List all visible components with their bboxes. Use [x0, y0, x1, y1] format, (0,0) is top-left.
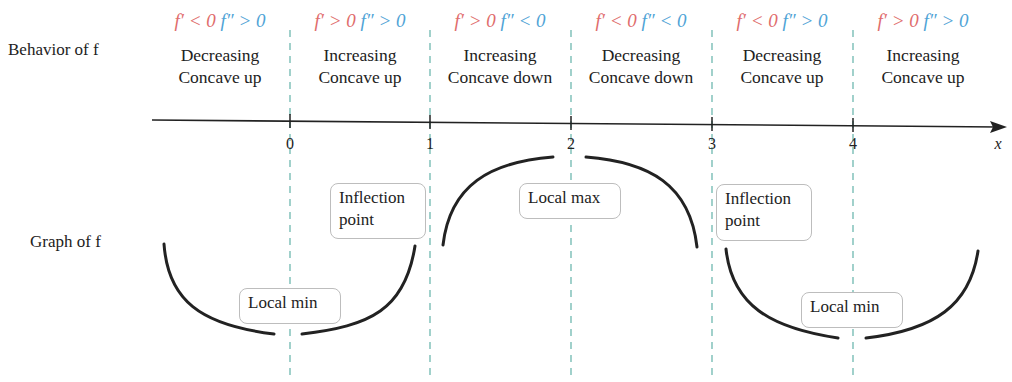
behavior-row-label: Behavior of f	[8, 40, 99, 60]
tick-label-3: 3	[702, 135, 722, 153]
behavior-interval-2: IncreasingConcave up	[290, 44, 430, 88]
condition-interval-4: f′ < 0 f″ < 0	[571, 10, 711, 32]
inflection-point-label-1: Inflectionpoint	[330, 183, 426, 239]
tick-label-1: 1	[420, 135, 440, 153]
inflection-point-label-2: Inflectionpoint	[716, 184, 812, 241]
condition-interval-2: f′ > 0 f″ > 0	[290, 10, 430, 32]
condition-interval-5: f′ < 0 f″ > 0	[712, 10, 852, 32]
tick-label-0: 0	[280, 135, 300, 153]
behavior-interval-3: IncreasingConcave down	[430, 44, 570, 88]
graph-row-label: Graph of f	[30, 232, 101, 252]
x-axis-label: x	[988, 135, 1008, 153]
tick-label-2: 2	[561, 135, 581, 153]
local-min-label-1: Local min	[239, 288, 341, 324]
local-min-label-2: Local min	[801, 292, 903, 328]
local-max-label: Local max	[519, 183, 621, 219]
behavior-interval-4: DecreasingConcave down	[571, 44, 711, 88]
condition-interval-3: f′ > 0 f″ < 0	[430, 10, 570, 32]
condition-interval-6: f′ > 0 f″ > 0	[853, 10, 993, 32]
concavity-diagram: Behavior of f Graph of f f′ < 0 f″ > 0 f…	[0, 0, 1012, 382]
behavior-interval-6: IncreasingConcave up	[853, 44, 993, 88]
behavior-interval-5: DecreasingConcave up	[712, 44, 852, 88]
tick-label-4: 4	[843, 135, 863, 153]
behavior-interval-1: DecreasingConcave up	[150, 44, 290, 88]
x-axis	[152, 114, 1007, 133]
condition-interval-1: f′ < 0 f″ > 0	[150, 10, 290, 32]
